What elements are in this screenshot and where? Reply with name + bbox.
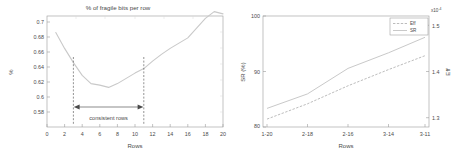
left-chart-title: % of fragile bits per row <box>86 4 151 11</box>
left-y-axis-title: % <box>8 69 14 75</box>
sr-y-axis-title: SR (%) <box>240 62 246 81</box>
right-right-y-axis: 1.5 1.4 1.3 <box>426 23 440 121</box>
sr-y-tick-label: 90 <box>254 69 260 75</box>
left-x-tick-label: 20 <box>220 131 226 137</box>
sr-y-tick-label: 80 <box>254 123 260 129</box>
right-chart-panel: x10-4 100 90 80 SR (%) 1.5 1.4 1.3 <box>233 0 466 161</box>
right-x-tick-label: 2-16 <box>343 131 354 137</box>
right-axis-exponent: x10-4 <box>431 7 442 13</box>
left-x-tick-label: 12 <box>150 131 156 137</box>
left-y-tick-label: 0.62 <box>34 79 45 85</box>
legend-box <box>390 18 428 35</box>
fragile-bits-curve <box>56 12 223 88</box>
left-x-tick-label: 10 <box>132 131 138 137</box>
left-x-tick-label: 16 <box>185 131 191 137</box>
eff-y-tick-label: 1.3 <box>432 115 440 121</box>
left-x-tick-label: 8 <box>116 131 119 137</box>
left-x-tick-label: 4 <box>81 131 84 137</box>
eff-series-line <box>267 56 425 119</box>
left-y-tick-label: 0.58 <box>34 109 45 115</box>
left-y-tick-label: 0.64 <box>34 64 45 70</box>
left-x-axis: 0 2 4 6 8 10 12 14 16 18 <box>46 124 227 137</box>
left-y-tick-label: 0.6 <box>37 94 45 100</box>
right-chart-svg: x10-4 100 90 80 SR (%) 1.5 1.4 1.3 <box>233 0 466 161</box>
consistent-rows-arrow <box>74 105 144 110</box>
right-x-tick-label: 3-11 <box>420 131 430 137</box>
right-left-y-axis: 100 90 80 <box>251 13 266 129</box>
left-x-tick-label: 18 <box>202 131 208 137</box>
left-y-tick-label: 0.68 <box>34 34 45 40</box>
right-axis-exponent-power: -4 <box>438 7 441 11</box>
right-chart-legend[interactable]: Eff SR <box>390 18 428 35</box>
right-x-tick-label: 1-20 <box>262 131 273 137</box>
left-y-tick-label: 0.7 <box>37 19 45 25</box>
left-x-tick-label: 0 <box>46 131 49 137</box>
left-y-axis: 0.7 0.68 0.66 0.64 0.62 0.6 0.58 <box>34 19 51 115</box>
left-y-tick-label: 0.66 <box>34 49 45 55</box>
legend-label-sr[interactable]: SR <box>410 28 417 33</box>
left-x-tick-label: 2 <box>63 131 66 137</box>
right-x-axis: 1-20 2-18 2-16 3-14 3-11 <box>262 124 431 137</box>
left-chart-svg: % of fragile bits per row 0.7 <box>0 0 233 161</box>
left-x-tick-label: 6 <box>98 131 101 137</box>
left-x-tick-label: 14 <box>167 131 173 137</box>
left-x-axis-title: Rows <box>127 143 142 149</box>
sr-series-line <box>267 37 425 108</box>
right-x-axis-title: Rows <box>338 143 353 149</box>
eff-y-axis-title: Eff <box>445 68 451 76</box>
legend-label-eff[interactable]: Eff <box>410 21 416 26</box>
right-x-tick-label: 2-18 <box>302 131 313 137</box>
eff-y-tick-label: 1.4 <box>432 69 440 75</box>
sr-y-tick-label: 100 <box>251 13 260 19</box>
eff-y-tick-label: 1.5 <box>432 23 440 29</box>
left-chart-panel: % of fragile bits per row 0.7 <box>0 0 233 161</box>
consistent-rows-label: consistent rows <box>89 115 128 121</box>
figure-container: % of fragile bits per row 0.7 <box>0 0 466 161</box>
right-x-tick-label: 3-14 <box>383 131 394 137</box>
